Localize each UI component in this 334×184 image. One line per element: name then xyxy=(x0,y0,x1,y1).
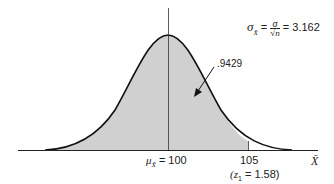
z-value: = 1.58) xyxy=(242,168,280,180)
std-error-value: = 3.162 xyxy=(283,21,320,33)
z-score-label: (z1 = 1.58) xyxy=(230,168,279,182)
area-label: .9429 xyxy=(217,58,242,69)
mu-subscript: X̄ xyxy=(152,161,156,169)
fraction: σ √n xyxy=(270,19,279,38)
tick-105: 105 xyxy=(240,154,258,166)
mean-value: = 100 xyxy=(159,154,187,166)
sigma-subscript: X̄ xyxy=(253,29,257,37)
mean-label: μX̄ = 100 xyxy=(146,154,187,169)
z-symbol: (z xyxy=(230,168,238,180)
fraction-denominator: √n xyxy=(270,29,279,38)
equals-sign: = xyxy=(261,21,267,33)
x-axis-label: X̄ xyxy=(311,154,318,169)
std-error-formula: σX̄ = σ √n = 3.162 xyxy=(247,19,320,38)
